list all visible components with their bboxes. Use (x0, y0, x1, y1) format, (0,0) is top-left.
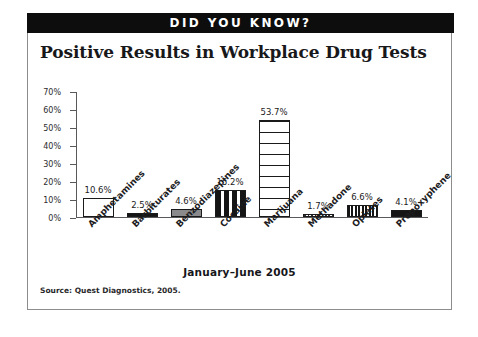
banner-title: DID YOU KNOW? (170, 16, 312, 30)
y-axis-tick-label: 50% (43, 124, 61, 133)
y-axis-tick-label: 60% (43, 106, 61, 115)
bar-value-label: 10.6% (84, 185, 111, 195)
infographic-card: DID YOU KNOW? Positive Results in Workpl… (27, 13, 452, 310)
y-axis-tick: 0% (70, 218, 76, 219)
chart-title: Positive Results in Workplace Drug Tests (40, 42, 427, 62)
y-axis-tick-label: 40% (43, 142, 61, 151)
y-axis-tick-label: 20% (43, 178, 61, 187)
y-axis-tick: 10% (70, 200, 76, 201)
did-you-know-banner: DID YOU KNOW? (27, 13, 454, 33)
y-axis-line (76, 92, 77, 218)
source-note: Source: Quest Diagnostics, 2005. (40, 286, 181, 295)
y-axis-tick: 50% (70, 128, 76, 129)
y-axis-tick: 30% (70, 164, 76, 165)
period-label: January–June 2005 (28, 266, 451, 278)
y-axis-tick: 20% (70, 182, 76, 183)
y-axis-tick: 70% (70, 92, 76, 93)
y-axis-tick-label: 70% (43, 88, 61, 97)
y-axis-tick-label: 10% (43, 196, 61, 205)
bar-value-label: 53.7% (260, 107, 287, 117)
x-axis-line (76, 217, 428, 218)
y-axis-tick: 60% (70, 110, 76, 111)
y-axis-tick-label: 0% (48, 214, 61, 223)
y-axis-tick-label: 30% (43, 160, 61, 169)
y-axis-tick: 40% (70, 146, 76, 147)
